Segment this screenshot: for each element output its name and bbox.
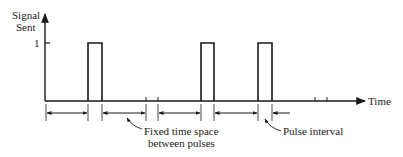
annotation-fixed-space: Fixed time space between pulses (127, 118, 219, 149)
pulse-2 (201, 43, 214, 101)
y-axis-label-line2: Sent (16, 21, 36, 33)
x-axis-label: Time (368, 95, 391, 107)
fixed-space-label-line1: Fixed time space (144, 125, 219, 137)
leader-arrow (127, 118, 142, 129)
x-axis: Time (45, 95, 391, 107)
pulse-train (88, 43, 272, 101)
pulse-interval-label: Pulse interval (283, 125, 343, 137)
pulse-3 (258, 43, 272, 101)
y-axis: Signal Sent 1 (12, 9, 50, 101)
leader-arrow (265, 119, 281, 131)
pulse-1 (88, 43, 102, 101)
pulse-timing-diagram: Signal Sent 1 Time (0, 0, 403, 157)
annotation-pulse-interval: Pulse interval (265, 119, 343, 137)
y-axis-label-line1: Signal (12, 9, 40, 21)
fixed-space-label-line2: between pulses (148, 137, 215, 149)
y-tick-label: 1 (34, 37, 40, 49)
